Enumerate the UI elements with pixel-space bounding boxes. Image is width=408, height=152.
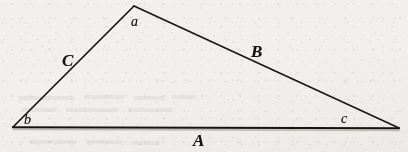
triangle-side-A <box>13 127 399 128</box>
triangle-side-C <box>13 6 134 127</box>
side-label-C: C <box>62 52 73 69</box>
triangle-figure: C B A a b c <box>0 0 408 152</box>
vertex-label-c: c <box>341 112 347 126</box>
triangle-drawing <box>0 0 408 152</box>
triangle-side-B <box>134 6 399 128</box>
side-label-A: A <box>193 132 204 149</box>
vertex-label-b: b <box>24 113 31 127</box>
side-label-B: B <box>251 43 262 60</box>
base-line-shadow <box>13 129 399 130</box>
vertex-label-a: a <box>131 15 138 29</box>
